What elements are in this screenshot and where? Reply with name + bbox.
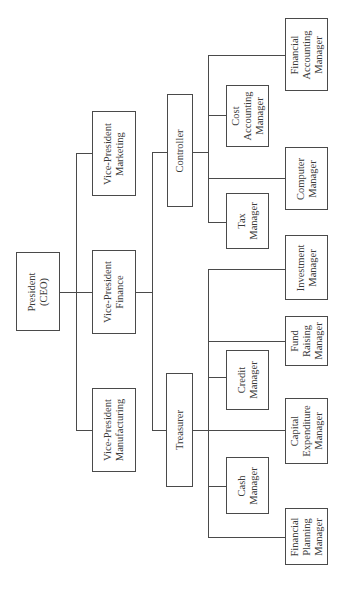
org-chart: President (CEO) Vice-President Marketing… — [0, 0, 346, 591]
node-label: Vice-President Marketing — [102, 123, 126, 185]
node-label: President (CEO) — [26, 272, 50, 311]
connector-cash — [208, 486, 226, 487]
connector-cost-accounting — [208, 115, 226, 116]
connector-vp-marketing — [76, 153, 92, 154]
connector-controller-trunk — [208, 55, 209, 223]
node-financial-accounting-manager: Financial Accounting Manager — [285, 18, 328, 91]
node-tax-manager: Tax Manager — [226, 193, 269, 249]
node-label: Treasurer — [174, 410, 186, 450]
connector-controller — [152, 152, 167, 153]
connector-credit — [208, 377, 226, 378]
connector-finance-trunk — [152, 152, 153, 431]
connector-treasurer-trunk — [208, 269, 209, 537]
node-cost-accounting-manager: Cost Accounting Manager — [226, 85, 269, 147]
node-label: Controller — [174, 129, 186, 172]
node-investment-manager: Investment Manager — [285, 235, 328, 300]
connector-capital-expenditure — [208, 430, 285, 431]
node-capital-expenditure-manager: Capital Expenditure Manager — [285, 398, 328, 464]
node-controller: Controller — [167, 94, 193, 207]
connector-investment — [208, 269, 285, 270]
connector-financial-planning — [208, 537, 285, 538]
node-label: Computer Manager — [295, 158, 319, 200]
node-label: Financial Planning Manager — [289, 517, 325, 556]
node-label: Investment Manager — [295, 244, 319, 291]
node-treasurer: Treasurer — [166, 373, 193, 487]
node-financial-planning-manager: Financial Planning Manager — [285, 508, 328, 565]
node-label: Vice-President Finance — [102, 261, 126, 323]
connector-vp-finance — [76, 292, 92, 293]
node-label: Cost Accounting Manager — [230, 92, 266, 141]
connector-treasurer — [152, 430, 166, 431]
node-label: Credit Manager — [236, 361, 260, 398]
node-president: President (CEO) — [16, 252, 60, 331]
node-credit-manager: Credit Manager — [226, 350, 269, 410]
node-computer-manager: Computer Manager — [285, 147, 328, 210]
node-fund-raising-manager: Fund Raising Manager — [285, 316, 328, 366]
connector-tax — [208, 222, 226, 223]
node-label: Vice-President Manufacturing — [102, 399, 126, 461]
node-vp-finance: Vice-President Finance — [92, 250, 136, 334]
connector-president — [60, 292, 76, 293]
node-vp-manufacturing: Vice-President Manufacturing — [92, 388, 136, 472]
connector-financial-accounting — [208, 55, 285, 56]
node-label: Capital Expenditure Manager — [289, 405, 325, 456]
connector-finance-out — [136, 292, 152, 293]
node-label: Tax Manager — [236, 202, 260, 239]
node-label: Fund Raising Manager — [289, 322, 325, 359]
node-cash-manager: Cash Manager — [226, 457, 269, 514]
node-label: Cash Manager — [236, 467, 260, 504]
connector-vp-manufacturing — [76, 430, 92, 431]
connector-fund-raising — [208, 341, 285, 342]
connector-treasurer-out — [193, 430, 208, 431]
connector-controller-out — [193, 152, 208, 153]
node-vp-marketing: Vice-President Marketing — [92, 111, 136, 196]
node-label: Financial Accounting Manager — [289, 30, 325, 79]
connector-computer — [208, 178, 285, 179]
